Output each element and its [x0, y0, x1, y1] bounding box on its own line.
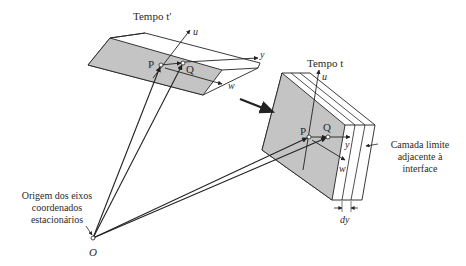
label-time: Tempo t — [307, 57, 343, 69]
diagram: Tempo t′ Tempo t P Q P Q u y w u y w O O… — [0, 0, 466, 266]
label-w-right: w — [339, 163, 346, 174]
diagram-canvas: Tempo t′ Tempo t P Q P Q u y w u y w O O… — [0, 0, 466, 266]
element-at-time-t — [262, 73, 375, 200]
motion-arrow — [240, 99, 273, 112]
label-p-left: P — [148, 58, 154, 70]
point-p-left — [159, 63, 163, 67]
label-time-prime: Tempo t′ — [133, 10, 172, 22]
label-y-right: y — [344, 139, 350, 150]
point-q-right — [326, 135, 330, 139]
label-q-right: Q — [323, 121, 331, 133]
label-q-left: Q — [186, 63, 194, 75]
label-u-left: u — [193, 26, 198, 37]
label-u-right: u — [322, 71, 327, 82]
label-w-left: w — [228, 80, 235, 91]
label-p-right: P — [300, 125, 306, 137]
point-p-right — [307, 135, 311, 139]
origin-desc-line1: Origem dos eixos — [22, 190, 93, 201]
origin-desc-line3: estacionários — [31, 214, 83, 225]
boundary-desc-line1: Camada limite — [391, 139, 450, 150]
origin-desc-line2: coordenados — [32, 202, 83, 213]
origin-point — [91, 236, 95, 240]
label-y-left: y — [259, 49, 265, 60]
label-dy: dy — [340, 214, 350, 225]
point-q-left — [181, 61, 185, 65]
boundary-desc-line3: interface — [403, 163, 439, 174]
boundary-desc-line2: adjacente à — [398, 151, 443, 162]
label-origin: O — [89, 246, 97, 258]
